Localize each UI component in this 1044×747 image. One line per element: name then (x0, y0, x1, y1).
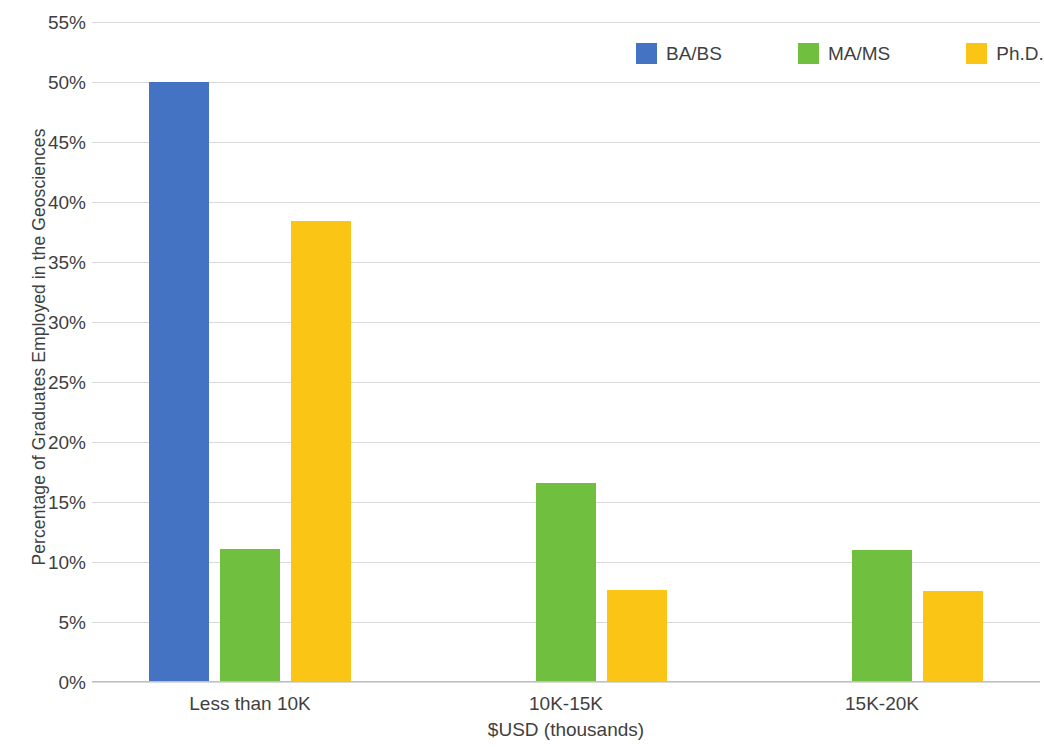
chart-legend: BA/BSMA/MSPh.D. (636, 38, 1044, 68)
bar (149, 82, 209, 682)
y-axis-tick-label: 0% (30, 673, 86, 692)
legend-label: Ph.D. (996, 44, 1044, 63)
gridline (92, 142, 1040, 143)
y-axis-tick-labels: 0%5%10%15%20%25%30%35%40%45%50%55% (30, 0, 86, 747)
x-axis-line (92, 681, 1040, 682)
y-axis-tick-label: 5% (30, 613, 86, 632)
legend-label: MA/MS (828, 44, 890, 63)
legend-item[interactable]: Ph.D. (966, 43, 1044, 64)
legend-swatch-icon (798, 43, 819, 64)
x-axis-tick-label: 15K-20K (724, 692, 1040, 716)
gridline (92, 202, 1040, 203)
bar (923, 591, 983, 682)
gridline (92, 382, 1040, 383)
legend-label: BA/BS (666, 44, 722, 63)
legend-item[interactable]: MA/MS (798, 43, 890, 64)
y-axis-tick-label: 55% (30, 13, 86, 32)
y-axis-tick-label: 15% (30, 493, 86, 512)
legend-swatch-icon (966, 43, 987, 64)
gridline (92, 322, 1040, 323)
bar (291, 221, 351, 682)
plot-area (92, 22, 1040, 682)
gridline (92, 262, 1040, 263)
y-axis-tick-label: 10% (30, 553, 86, 572)
bar-chart: Percentage of Graduates Employed in the … (0, 0, 1044, 747)
x-axis-title: $USD (thousands) (92, 718, 1040, 742)
gridline (92, 22, 1040, 23)
legend-swatch-icon (636, 43, 657, 64)
y-axis-tick-label: 30% (30, 313, 86, 332)
y-axis-tick-label: 40% (30, 193, 86, 212)
y-axis-tick-label: 25% (30, 373, 86, 392)
gridline (92, 82, 1040, 83)
gridline (92, 442, 1040, 443)
bar (220, 549, 280, 682)
bar (536, 483, 596, 682)
x-axis-tick-label: Less than 10K (92, 692, 408, 716)
bar (852, 550, 912, 682)
y-axis-tick-label: 20% (30, 433, 86, 452)
x-axis-tick-label: 10K-15K (408, 692, 724, 716)
legend-item[interactable]: BA/BS (636, 43, 722, 64)
y-axis-tick-label: 45% (30, 133, 86, 152)
y-axis-tick-label: 35% (30, 253, 86, 272)
gridline (92, 682, 1040, 683)
y-axis-tick-label: 50% (30, 73, 86, 92)
bar (607, 590, 667, 682)
